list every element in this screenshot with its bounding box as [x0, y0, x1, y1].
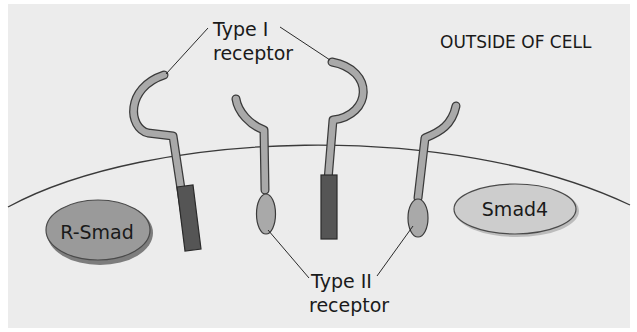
type2-label-line1: Type II: [310, 270, 372, 292]
kinase-domain-oval-left: [257, 194, 276, 234]
outside-of-cell-label: OUTSIDE OF CELL: [440, 32, 592, 52]
r-smad-label: R-Smad: [60, 221, 134, 243]
kinase-domain-right: [321, 175, 337, 239]
type1-label-line2: receptor: [213, 42, 293, 64]
kinase-domain-oval-right: [408, 199, 428, 237]
smad4: Smad4: [454, 184, 579, 237]
diagram-svg: R-Smad Smad4 Type I receptor OUTSIDE OF …: [0, 0, 637, 332]
r-smad: R-Smad: [46, 200, 153, 265]
tgf-beta-receptor-diagram: R-Smad Smad4 Type I receptor OUTSIDE OF …: [0, 0, 637, 332]
smad4-label: Smad4: [482, 198, 548, 220]
type2-label-line2: receptor: [309, 294, 389, 316]
type1-label-line1: Type I: [212, 18, 268, 40]
